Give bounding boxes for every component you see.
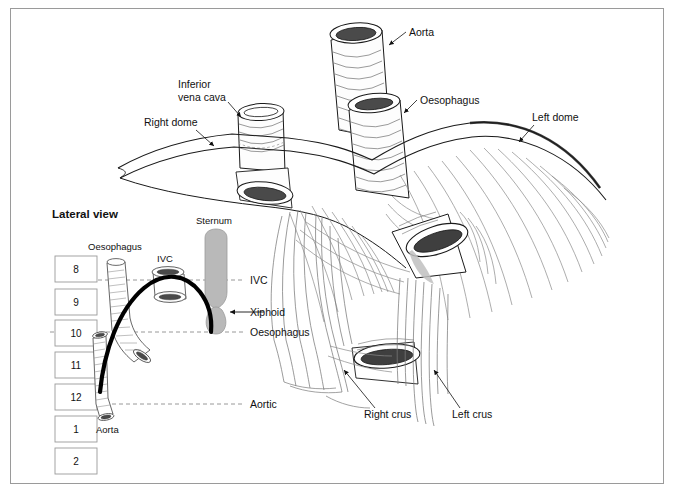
vertebra-number: 1 [73,424,79,435]
label-ivc-line2: vena cava [178,91,226,103]
lateral-label-aorta: Aorta [96,424,119,435]
lateral-ivc-tube [152,267,186,303]
lateral-ivc-lumen-bottom [159,294,181,300]
anatomy-figure: Aorta Oesophagus Left dome Right dome In… [0,0,674,495]
vertebra-number: 2 [73,456,79,467]
vertebra-number: 11 [71,360,82,371]
vertebra-number: 8 [73,264,79,275]
lateral-view-title: Lateral view [52,208,118,220]
level-label-ivc: IVC [250,274,268,286]
vertebra-box: 8 [55,256,97,282]
label-right-crus: Right crus [364,408,411,420]
vertebra-boxes: 8 9 10 11 12 [55,256,97,474]
label-oesophagus-main: Oesophagus [420,94,480,106]
vertebra-box: 1 [55,416,97,442]
label-aorta-main: Aorta [409,26,434,38]
lateral-label-ivc: IVC [157,253,173,264]
label-ivc-line1: Inferior [178,78,211,90]
label-left-crus: Left crus [452,408,492,420]
vertebra-box: 12 [55,384,97,410]
label-right-dome: Right dome [144,116,198,128]
vertebra-box: 10 [55,320,97,346]
lateral-ivc-lumen-top [157,269,179,275]
lateral-label-xiphoid: Xiphoid [250,306,285,318]
vertebra-number: 9 [73,297,79,308]
sternum-shape [205,229,227,308]
lateral-label-sternum: Sternum [196,215,232,226]
level-label-aortic: Aortic [250,398,277,410]
lateral-label-oesophagus: Oesophagus [88,241,142,252]
vertebra-number: 12 [70,392,82,403]
label-left-dome: Left dome [532,111,579,123]
diaphragm-diagram-canvas: Aorta Oesophagus Left dome Right dome In… [0,0,674,495]
vertebra-box: 11 [55,352,97,378]
vertebra-box: 9 [55,289,97,315]
level-label-oesophagus: Oesophagus [250,326,310,338]
vertebra-number: 10 [70,328,82,339]
vertebra-box: 2 [55,448,97,474]
